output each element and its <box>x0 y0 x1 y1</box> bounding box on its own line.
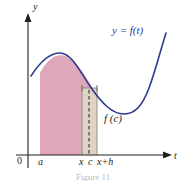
x-axis-label: t <box>174 151 177 161</box>
rectangle-height-label: f (c) <box>104 113 122 124</box>
tick-label-x: x <box>79 157 83 167</box>
curve-equation-label: y = f(t) <box>112 25 143 36</box>
tick-label-x-plus-h: x+h <box>97 157 113 167</box>
figure-container: y t 0 a x c x+h y = f(t) f (c) Figure 11 <box>0 0 186 181</box>
tick-label-a: a <box>38 157 43 167</box>
y-axis-label: y <box>33 2 37 12</box>
origin-label: 0 <box>17 156 22 166</box>
figure-svg <box>0 0 186 181</box>
tick-label-c: c <box>88 157 92 167</box>
figure-caption: Figure 11 <box>0 172 186 181</box>
